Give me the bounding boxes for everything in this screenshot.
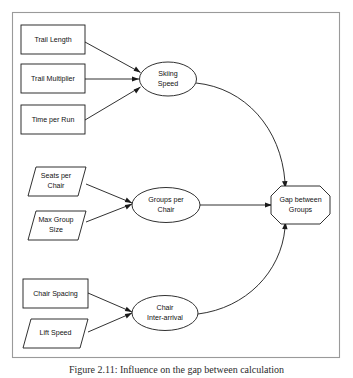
node-trail-multiplier[interactable]: Trail Multiplier xyxy=(21,64,85,93)
figure-caption: Figure 2.11: Influence on the gap betwee… xyxy=(0,364,353,375)
node-max-group-size-label-line1: Max Group xyxy=(38,216,73,224)
node-chair-interarrival-label-line2: Inter-arrival xyxy=(147,314,183,322)
node-trail-length[interactable]: Trail Length xyxy=(21,25,85,54)
node-groups-per-chair-label-line2: Chair xyxy=(158,206,176,214)
node-skiing-speed[interactable]: Skiing Speed xyxy=(140,62,197,96)
node-trail-length-label: Trail Length xyxy=(34,36,71,44)
node-groups-per-chair[interactable]: Groups per Chair xyxy=(132,188,200,223)
node-gap-between-groups-label-line1: Gap between xyxy=(279,196,321,204)
influence-diagram: Trail Length Trail Multiplier Time per R… xyxy=(0,0,353,378)
node-chair-spacing[interactable]: Chair Spacing xyxy=(23,279,88,308)
node-seats-per-chair-label-line1: Seats per xyxy=(41,172,72,180)
node-max-group-size-label-line2: Size xyxy=(49,226,63,234)
node-chair-interarrival-label-line1: Chair xyxy=(157,304,175,312)
node-gap-between-groups[interactable]: Gap between Groups xyxy=(271,186,330,224)
node-time-per-run-label: Time per Run xyxy=(32,116,75,124)
node-skiing-speed-label-line1: Skiing xyxy=(158,70,177,78)
node-chair-interarrival[interactable]: Chair Inter-arrival xyxy=(132,296,198,331)
node-skiing-speed-label-line2: Speed xyxy=(158,80,179,88)
node-time-per-run[interactable]: Time per Run xyxy=(21,105,85,134)
node-gap-between-groups-label-line2: Groups xyxy=(289,206,313,214)
node-seats-per-chair[interactable]: Seats per Chair xyxy=(28,167,86,196)
node-trail-multiplier-label: Trail Multiplier xyxy=(31,75,76,83)
node-lift-speed[interactable]: Lift Speed xyxy=(23,319,88,348)
node-lift-speed-label: Lift Speed xyxy=(40,329,72,337)
node-seats-per-chair-label-line2: Chair xyxy=(48,182,66,190)
figure-root: Trail Length Trail Multiplier Time per R… xyxy=(0,0,353,378)
node-max-group-size[interactable]: Max Group Size xyxy=(28,211,86,240)
node-groups-per-chair-label-line1: Groups per xyxy=(148,196,184,204)
node-chair-spacing-label: Chair Spacing xyxy=(33,290,78,298)
